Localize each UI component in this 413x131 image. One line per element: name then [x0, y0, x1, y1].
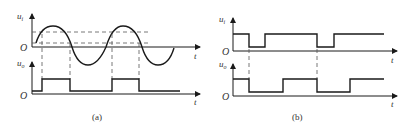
a-output-origin-label: O [20, 90, 27, 101]
waveform-diagram: ui O t uo O t (a) ui O t [0, 0, 413, 131]
panel-b: ui O t uo O t (b) [219, 14, 397, 122]
a-input-time-label: t [194, 51, 197, 61]
b-output-wave [233, 79, 384, 92]
a-caption: (a) [92, 112, 102, 122]
panel-a: ui O t uo O t (a) [17, 11, 200, 122]
b-caption: (b) [292, 112, 303, 122]
b-input-wave [233, 34, 384, 47]
b-output-time-label: t [391, 99, 394, 109]
a-output-label: uo [17, 58, 25, 69]
b-input-label: ui [219, 14, 226, 25]
b-output-origin-label: O [222, 91, 229, 102]
a-input-label: ui [17, 11, 24, 22]
b-input-time-label: t [391, 55, 394, 65]
b-input-origin-label: O [222, 46, 229, 57]
a-output-time-label: t [194, 97, 197, 107]
b-output-label: uo [219, 59, 227, 70]
a-output-pulse-wave [32, 79, 180, 91]
a-input-origin-label: O [20, 42, 27, 53]
